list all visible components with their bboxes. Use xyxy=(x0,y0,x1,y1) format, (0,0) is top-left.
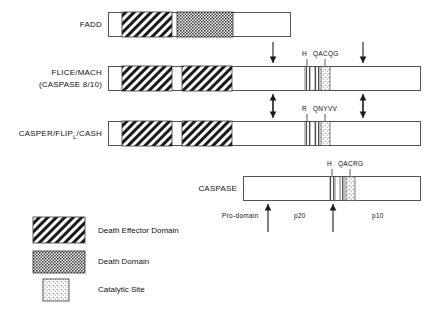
site-label-flice-qacqg: QACQG xyxy=(313,50,339,57)
casper-death-effector-domain-block-1 xyxy=(122,121,172,146)
caspase-catalytic-site-block xyxy=(346,177,355,201)
legend-label-catalytic-site: Catalytic Site xyxy=(98,285,145,294)
flice-death-effector-domain-block-1 xyxy=(122,66,172,91)
flice-stripe-band-2 xyxy=(315,67,319,91)
site-label-caspase-h: H xyxy=(327,160,332,167)
legend xyxy=(33,217,85,301)
row-label-flice-mach-line2: (CASPASE 8/10) xyxy=(8,80,102,89)
casper-stripe-band-1 xyxy=(305,122,310,146)
site-label-flice-h: H xyxy=(302,50,307,57)
segment-label-p20: p20 xyxy=(294,212,306,219)
flice-stripe-band-1 xyxy=(305,67,310,91)
site-label-casper-r: R xyxy=(302,105,307,112)
row-label-caspase: CASPASE xyxy=(180,184,237,193)
legend-swatch-catalytic-site xyxy=(43,279,69,301)
protein-domain-diagram xyxy=(0,0,432,309)
row-label-flice-mach: FLICE/MACH xyxy=(8,68,102,77)
site-label-casper-qnyvv: QNYVV xyxy=(313,105,337,112)
fadd-death-effector-domain-block xyxy=(122,12,172,37)
row-label-fadd: FADD xyxy=(8,20,102,29)
legend-label-death-effector-domain: Death Effector Domain xyxy=(98,226,179,235)
segment-label-pro-domain: Pro-domain xyxy=(222,212,259,219)
casper-death-effector-domain-block-2 xyxy=(182,121,232,146)
fadd-death-domain-block xyxy=(177,12,233,37)
row-label-casper-flip-cash: CASPER/FLIPL/CASH xyxy=(0,129,102,140)
legend-label-death-domain: Death Domain xyxy=(98,257,149,266)
casper-label-main: CASPER/FLIP xyxy=(19,129,73,138)
row-casper-flip-cash xyxy=(109,97,421,146)
site-label-caspase-qacrg: QACRG xyxy=(338,160,363,167)
flice-catalytic-site-block xyxy=(321,67,330,91)
legend-swatch-death-effector-domain xyxy=(33,217,85,243)
legend-swatch-death-domain xyxy=(33,251,85,273)
casper-label-suffix: /CASH xyxy=(77,129,102,138)
row-flice-mach xyxy=(109,42,421,113)
row-caspase xyxy=(244,169,421,232)
caspase-stripe-band-1 xyxy=(330,177,335,201)
caspase-stripe-band-2 xyxy=(340,177,344,201)
row-fadd xyxy=(109,12,291,37)
segment-label-p10: p10 xyxy=(372,212,384,219)
casper-stripe-band-2 xyxy=(315,122,319,146)
casper-catalytic-site-block xyxy=(321,122,330,146)
flice-death-effector-domain-block-2 xyxy=(182,66,232,91)
